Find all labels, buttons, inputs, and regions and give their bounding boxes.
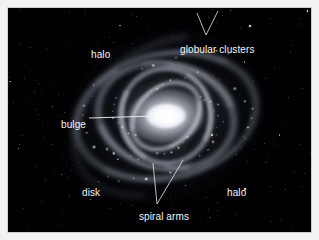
galaxy-figure: halo globular clusters bulge disk spiral… [0, 0, 319, 240]
annotation-overlay: halo globular clusters bulge disk spiral… [8, 8, 311, 232]
galaxy-photograph: halo globular clusters bulge disk spiral… [8, 8, 311, 232]
label-globular-clusters: globular clusters [180, 44, 255, 55]
label-disk: disk [82, 187, 100, 198]
leader-lines [8, 8, 311, 232]
label-spiral-arms: spiral arms [139, 211, 189, 222]
label-halo-bottom: halo [227, 187, 246, 198]
globular-clusters-leader [197, 11, 218, 35]
label-halo-top: halo [91, 49, 110, 60]
label-bulge: bulge [61, 119, 86, 130]
bulge-leader [89, 116, 155, 118]
spiral-arms-leader [153, 160, 183, 204]
photo-frame: halo globular clusters bulge disk spiral… [7, 7, 312, 233]
